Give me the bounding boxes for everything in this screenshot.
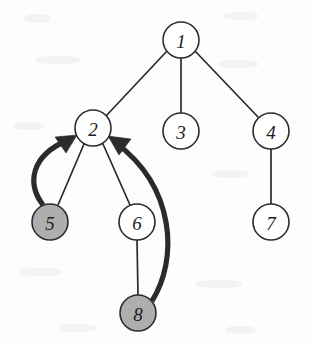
- edge-2-5: [58, 144, 84, 205]
- edge-1-4: [195, 51, 258, 117]
- graph-canvas: 1 2 3 4 5 6: [0, 0, 311, 347]
- node-5-label: 5: [45, 213, 55, 234]
- node-2-label: 2: [88, 119, 98, 140]
- node-1-label: 1: [176, 31, 186, 52]
- node-2[interactable]: 2: [75, 110, 111, 146]
- node-1[interactable]: 1: [163, 22, 199, 58]
- edge-6-8: [137, 240, 138, 295]
- node-4[interactable]: 4: [253, 113, 289, 149]
- node-3[interactable]: 3: [163, 113, 199, 149]
- node-5[interactable]: 5: [32, 204, 68, 240]
- node-7-label: 7: [266, 213, 277, 234]
- node-8-label: 8: [133, 304, 143, 325]
- node-8[interactable]: 8: [120, 295, 156, 331]
- node-6[interactable]: 6: [119, 204, 155, 240]
- node-3-label: 3: [175, 122, 186, 143]
- node-6-label: 6: [132, 213, 142, 234]
- node-4-label: 4: [266, 122, 276, 143]
- edge-1-2: [106, 51, 167, 116]
- graph-figure: 1 2 3 4 5 6: [0, 0, 311, 347]
- node-7[interactable]: 7: [253, 204, 289, 240]
